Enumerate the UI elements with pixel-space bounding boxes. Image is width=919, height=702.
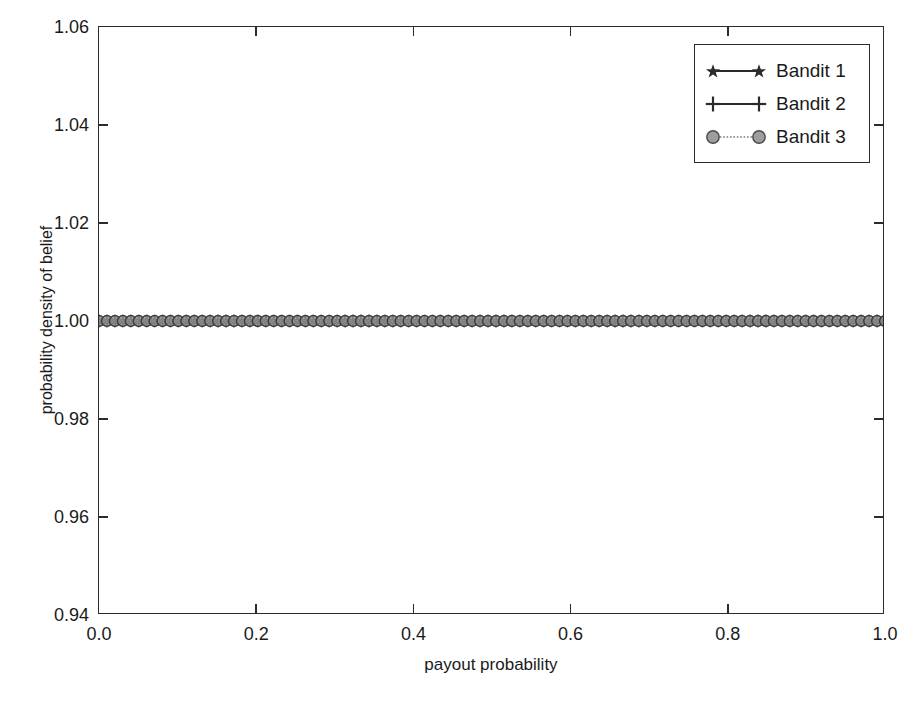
y-tick-mark xyxy=(99,124,108,126)
x-tick-label: 0.2 xyxy=(244,625,269,643)
series-bandit-1 xyxy=(99,315,883,325)
y-tick-mark xyxy=(99,320,108,322)
y-tick-mark xyxy=(874,124,883,126)
circle-marker-line-icon xyxy=(705,126,767,148)
plus-marker-line-icon xyxy=(705,93,767,115)
y-tick-mark xyxy=(99,418,108,420)
legend-item-bandit-3[interactable]: Bandit 3 xyxy=(705,120,859,153)
x-tick-mark xyxy=(255,604,257,613)
x-tick-mark xyxy=(727,604,729,613)
x-tick-label: 0.6 xyxy=(558,625,583,643)
legend-item-bandit-2[interactable]: Bandit 2 xyxy=(705,87,859,120)
y-tick-mark xyxy=(874,320,883,322)
figure-canvas: 0.940.960.981.001.021.041.06 0.00.20.40.… xyxy=(0,0,919,702)
y-axis-label: probability density of belief xyxy=(34,26,60,614)
y-tick-mark xyxy=(99,516,108,518)
y-tick-mark xyxy=(99,222,108,224)
x-tick-label: 0.4 xyxy=(401,625,426,643)
x-tick-mark xyxy=(413,27,415,36)
x-tick-label: 1.0 xyxy=(872,625,897,643)
x-axis-label: payout probability xyxy=(98,655,884,675)
series-bandit-3 xyxy=(99,316,883,327)
x-tick-mark xyxy=(727,27,729,36)
x-tick-mark xyxy=(570,27,572,36)
x-tick-mark xyxy=(570,604,572,613)
series-bandit-2 xyxy=(99,315,883,327)
x-tick-label: 0.0 xyxy=(86,625,111,643)
x-tick-mark xyxy=(255,27,257,36)
y-tick-mark xyxy=(874,222,883,224)
y-tick-mark xyxy=(874,516,883,518)
legend-item-bandit-1[interactable]: Bandit 1 xyxy=(705,54,859,87)
star-marker-line-icon xyxy=(705,60,767,82)
legend[interactable]: Bandit 1 Bandit 2 xyxy=(694,44,870,163)
legend-label-bandit-3: Bandit 3 xyxy=(776,126,846,148)
legend-label-bandit-1: Bandit 1 xyxy=(776,60,846,82)
x-tick-mark xyxy=(413,604,415,613)
x-tick-label: 0.8 xyxy=(715,625,740,643)
y-tick-mark xyxy=(874,418,883,420)
legend-label-bandit-2: Bandit 2 xyxy=(776,93,846,115)
